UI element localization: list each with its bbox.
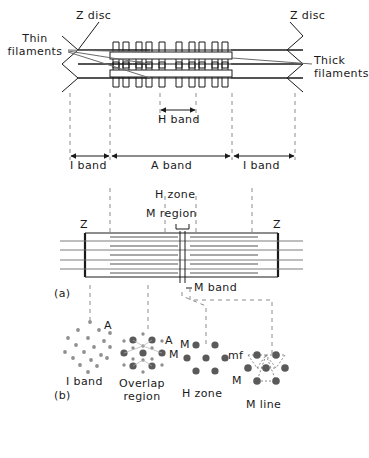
h-zone-dots	[183, 341, 228, 374]
label-z-left: Z	[80, 219, 88, 232]
marker-i-band-A: A	[104, 320, 112, 333]
label-a-band: A band	[151, 160, 192, 173]
caption-b: (b)	[54, 390, 71, 403]
caption-i-band: I band	[66, 376, 103, 389]
marker-overlap-M: M	[169, 349, 179, 362]
caption-h-zone: H zone	[182, 388, 222, 401]
marker-h-zone-M: M	[180, 339, 190, 352]
caption-m-line: M line	[246, 399, 281, 412]
overlap-thick-dots	[120, 336, 165, 369]
label-i-band-left: I band	[70, 160, 107, 173]
marker-overlap-A: A	[165, 335, 173, 348]
label-i-band-right: I band	[243, 160, 280, 173]
overlap-region-dots	[120, 332, 165, 373]
caption-a: (a)	[54, 288, 71, 301]
label-z-disc-right: Z disc	[290, 10, 325, 23]
label-h-band: H band	[158, 114, 200, 127]
marker-m-line-mf: mf	[228, 350, 243, 363]
caption-overlap-region: Overlap region	[113, 378, 171, 403]
label-thin-filaments: Thin filaments	[4, 33, 66, 58]
label-h-zone-mid: H zone	[155, 189, 195, 202]
label-z-right: Z	[273, 219, 281, 232]
label-thick-filaments: Thick filaments	[314, 55, 369, 80]
label-z-disc-left: Z disc	[76, 10, 111, 23]
m-line-dots	[244, 351, 289, 385]
label-m-region: M region	[146, 208, 197, 221]
marker-m-line-M: M	[232, 375, 242, 388]
label-m-band: M band	[194, 282, 237, 295]
